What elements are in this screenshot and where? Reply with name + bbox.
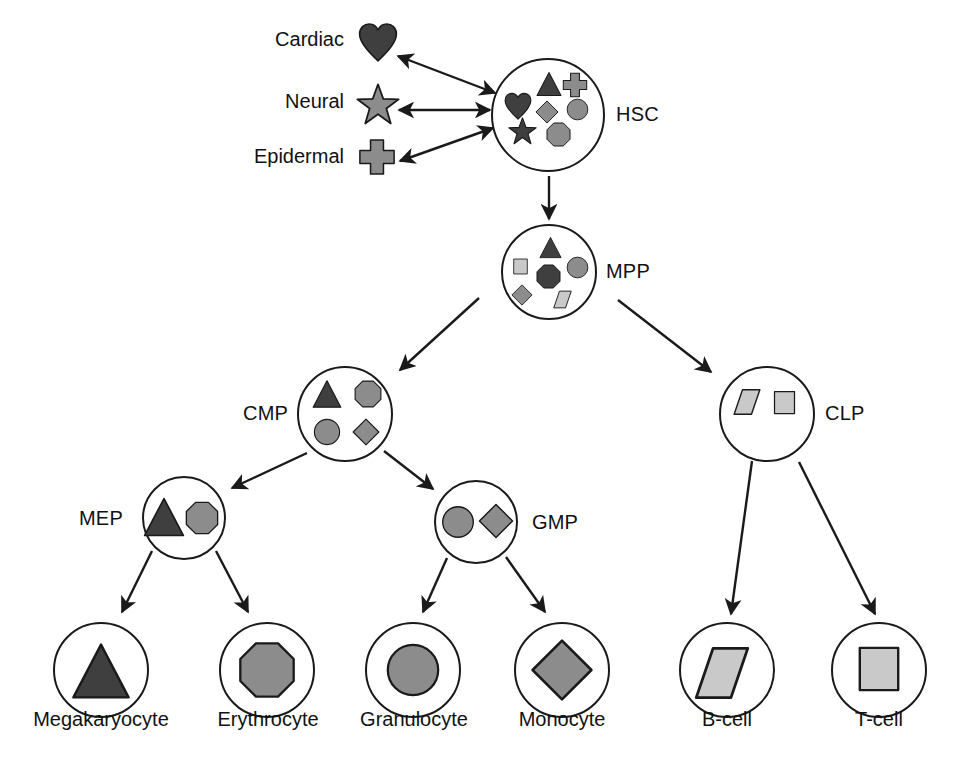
- octagon-shape: [185, 501, 219, 535]
- square-shape: [772, 390, 797, 415]
- octagon-shape: [354, 380, 382, 408]
- arrow-mpp-cmp: [400, 298, 479, 370]
- arrow-hsc-cardiac: [398, 56, 495, 93]
- arrow-gmp-granulocyte: [423, 558, 447, 612]
- lineage-label-cardiac: Cardiac: [268, 28, 344, 51]
- triangle-shape: [536, 71, 562, 97]
- square-shape: [512, 258, 529, 275]
- heart-shape: [358, 22, 398, 62]
- node-label-clp: CLP: [825, 402, 865, 425]
- circle-shape: [566, 98, 589, 121]
- node-label-cmp: CMP: [243, 402, 288, 425]
- triangle-shape: [71, 641, 131, 701]
- arrow-clp-tcell: [799, 462, 875, 614]
- figure-canvas: CardiacNeuralEpidermal HSCMPPCMPCLPMEPGM…: [0, 0, 965, 777]
- diamond-shape: [535, 100, 559, 124]
- node-label-gmp: GMP: [532, 511, 578, 534]
- arrow-hsc-epidermal: [400, 128, 493, 161]
- arrow-mep-megakaryocyte: [122, 551, 152, 612]
- parallelogram-shape: [733, 388, 761, 416]
- arrow-cmp-mep: [232, 453, 307, 488]
- terminal-label-monocyte: Monocyte: [486, 708, 638, 731]
- octagon-shape: [546, 122, 571, 147]
- diamond-shape: [478, 503, 514, 539]
- circle-shape: [566, 256, 589, 279]
- node-label-mpp: MPP: [606, 260, 650, 283]
- circle-shape: [441, 505, 475, 539]
- triangle-shape: [312, 379, 342, 409]
- heart-shape: [504, 92, 532, 120]
- triangle-shape: [539, 236, 562, 259]
- lineage-label-epidermal: Epidermal: [240, 145, 344, 168]
- arrow-clp-bcell: [731, 461, 752, 614]
- arrow-gmp-monocyte: [506, 557, 545, 612]
- cross-shape: [562, 72, 588, 98]
- arrow-cmp-gmp: [384, 451, 433, 489]
- diamond-shape: [511, 284, 533, 306]
- octagon-shape: [536, 264, 561, 289]
- circle-shape: [313, 418, 341, 446]
- arrow-mpp-clp: [618, 300, 711, 372]
- parallelogram-shape: [553, 290, 572, 309]
- parallelogram-shape: [694, 645, 750, 701]
- square-shape: [855, 645, 903, 693]
- terminal-label-megakaryocyte: Megakaryocyte: [10, 708, 192, 731]
- diamond-shape: [530, 638, 594, 702]
- diamond-shape: [352, 418, 380, 446]
- terminal-label-granulocyte: Granulocyte: [326, 708, 502, 731]
- star-shape: [508, 117, 537, 146]
- octagon-shape: [238, 641, 296, 699]
- terminal-label-t-cell: T-cell: [823, 708, 935, 731]
- triangle-shape: [143, 496, 185, 538]
- node-label-mep: MEP: [79, 507, 123, 530]
- terminal-label-b-cell: B-cell: [671, 708, 783, 731]
- node-label-hsc: HSC: [616, 103, 659, 126]
- star-shape: [356, 83, 400, 127]
- arrow-mep-erythrocyte: [216, 551, 248, 612]
- cross-shape: [358, 138, 396, 176]
- circle-shape: [385, 642, 441, 698]
- lineage-label-neural: Neural: [268, 90, 344, 113]
